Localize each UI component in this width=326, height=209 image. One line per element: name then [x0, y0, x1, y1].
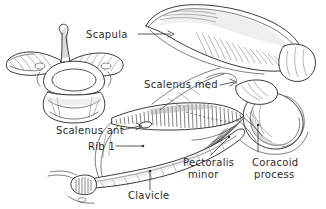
label-scalenus-ant: Scalenus ant — [56, 125, 124, 136]
right-foramen-transversarium — [101, 63, 111, 69]
anatomy-illustration: Scapula Scalenus med Scalenus ant Rib 1 … — [0, 0, 326, 209]
label-scalenus-med: Scalenus med — [144, 79, 218, 90]
left-foramen-transversarium — [35, 63, 45, 69]
leader-rib-1-dot — [142, 145, 145, 148]
vertebral-foramen — [52, 69, 96, 91]
label-pectoralis-minor: Pectoralis — [183, 157, 234, 168]
label-coracoid-process: Coracoid — [252, 157, 298, 168]
acromion — [279, 44, 316, 81]
leader-pec-minor-dot — [228, 136, 231, 139]
vertebral-body — [43, 92, 105, 123]
label-clavicle: Clavicle — [128, 190, 169, 201]
anatomy-figure: Scapula Scalenus med Scalenus ant Rib 1 … — [0, 0, 326, 209]
label-coracoid-process-line2: process — [254, 169, 295, 180]
label-scapula: Scapula — [86, 29, 128, 40]
label-rib-1: Rib 1 — [88, 141, 115, 152]
leader-coracoid-dot — [257, 124, 260, 127]
leader-clavicle-dot — [149, 170, 152, 173]
clavicle-sternal-end — [71, 175, 97, 195]
label-pectoralis-minor-line2: minor — [188, 169, 219, 180]
